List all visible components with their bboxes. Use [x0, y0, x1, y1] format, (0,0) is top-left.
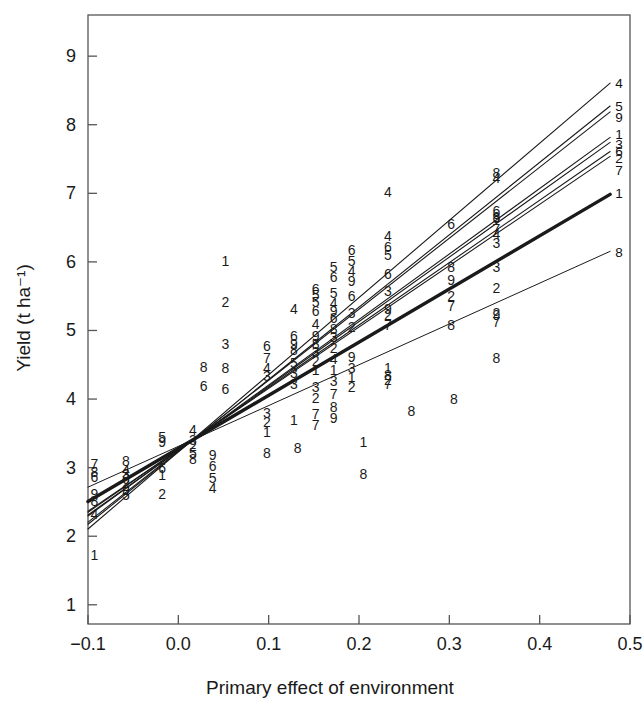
data-point-6: 6 [384, 266, 392, 282]
data-point-6: 6 [447, 216, 455, 232]
data-point-4: 4 [384, 184, 392, 200]
data-point-3: 3 [290, 376, 298, 392]
data-point-1: 1 [263, 424, 271, 440]
data-point-6: 6 [90, 469, 98, 485]
line-end-label-4: 4 [615, 76, 623, 91]
y-axis-tick-labels: 123456789 [66, 46, 76, 615]
x-tick-label: 0.1 [256, 634, 281, 654]
data-point-4: 4 [492, 170, 500, 186]
data-point-8: 8 [360, 466, 368, 482]
line-end-label-9: 9 [615, 110, 623, 125]
y-tick-label: 4 [66, 389, 76, 409]
data-point-9: 9 [447, 272, 455, 288]
data-point-8: 8 [492, 350, 500, 366]
data-point-5: 5 [122, 487, 130, 503]
data-point-8: 8 [221, 360, 229, 376]
data-point-2: 2 [348, 319, 356, 335]
y-tick-label: 6 [66, 252, 76, 272]
data-point-1: 1 [221, 253, 229, 269]
data-point-8: 8 [189, 451, 197, 467]
y-tick-label: 9 [66, 46, 76, 66]
scatter-plot-canvas: −0.10.00.10.20.30.40.5 123456789 7869841… [0, 0, 643, 710]
data-point-3: 3 [221, 336, 229, 352]
data-point-2: 2 [312, 390, 320, 406]
data-point-8: 8 [447, 317, 455, 333]
data-point-3: 3 [384, 283, 392, 299]
data-point-1: 1 [90, 547, 98, 563]
line-end-label-7: 7 [615, 163, 623, 178]
data-point-7: 7 [492, 314, 500, 330]
y-axis-title: Yield (t ha⁻¹) [13, 264, 34, 372]
data-point-7: 7 [384, 317, 392, 333]
data-point-3: 3 [492, 235, 500, 251]
data-point-6: 6 [348, 288, 356, 304]
line-end-label-8: 8 [615, 245, 623, 260]
line-end-label-1: 1 [615, 186, 623, 201]
data-point-1: 1 [290, 412, 298, 428]
figure-root: −0.10.00.10.20.30.40.5 123456789 7869841… [0, 0, 643, 710]
data-point-6: 6 [200, 378, 208, 394]
data-point-6: 6 [330, 269, 338, 285]
data-point-9: 9 [348, 273, 356, 289]
data-point-3: 3 [263, 368, 271, 384]
data-point-6: 6 [221, 381, 229, 397]
x-tick-label: 0.4 [527, 634, 552, 654]
data-point-9: 9 [158, 434, 166, 450]
data-point-8: 8 [263, 445, 271, 461]
data-point-5: 5 [384, 247, 392, 263]
y-tick-label: 2 [66, 526, 76, 546]
data-point-8: 8 [200, 359, 208, 375]
data-point-7: 7 [312, 417, 320, 433]
data-point-4: 4 [290, 301, 298, 317]
y-tick-label: 5 [66, 320, 76, 340]
data-point-7: 7 [447, 298, 455, 314]
y-tick-label: 1 [66, 595, 76, 615]
data-point-3: 3 [492, 259, 500, 275]
y-tick-label: 8 [66, 115, 76, 135]
data-point-1: 1 [158, 467, 166, 483]
data-point-8: 8 [294, 440, 302, 456]
plot-background [0, 0, 643, 710]
y-tick-label: 7 [66, 183, 76, 203]
data-point-2: 2 [221, 294, 229, 310]
x-axis-title: Primary effect of environment [206, 677, 455, 698]
data-point-7: 7 [384, 376, 392, 392]
data-point-4: 4 [90, 506, 98, 522]
data-point-2: 2 [492, 280, 500, 296]
data-point-8: 8 [450, 391, 458, 407]
x-tick-label: −0.1 [70, 634, 106, 654]
data-point-9: 9 [330, 410, 338, 426]
data-point-2: 2 [158, 486, 166, 502]
x-tick-label: 0.5 [617, 634, 642, 654]
x-tick-label: 0.3 [437, 634, 462, 654]
data-point-2: 2 [348, 379, 356, 395]
data-point-1: 1 [360, 434, 368, 450]
data-point-1: 1 [312, 362, 320, 378]
data-point-8: 8 [407, 403, 415, 419]
y-tick-label: 3 [66, 458, 76, 478]
x-tick-label: 0.0 [166, 634, 191, 654]
data-point-4: 4 [209, 480, 217, 496]
x-tick-label: 0.2 [346, 634, 371, 654]
